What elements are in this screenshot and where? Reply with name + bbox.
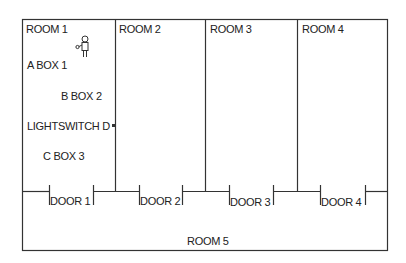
door-2-label: DOOR 2 [140,195,180,207]
person-icon [76,36,88,57]
lightswitch-label: LIGHTSWITCH D [27,120,110,132]
room-3-label: ROOM 3 [210,23,252,35]
box-3-label: C BOX 3 [43,150,84,162]
box-1-label: A BOX 1 [27,59,67,71]
box-2-label: B BOX 2 [61,90,102,102]
room-2-label: ROOM 2 [119,23,161,35]
lightswitch-mark [112,124,116,127]
room-5-label: ROOM 5 [187,235,229,247]
room-4-label: ROOM 4 [302,23,344,35]
door-4-label: DOOR 4 [321,196,361,208]
room-1-label: ROOM 1 [26,23,68,35]
door-3-label: DOOR 3 [230,196,270,208]
door-1-label: DOOR 1 [50,195,90,207]
